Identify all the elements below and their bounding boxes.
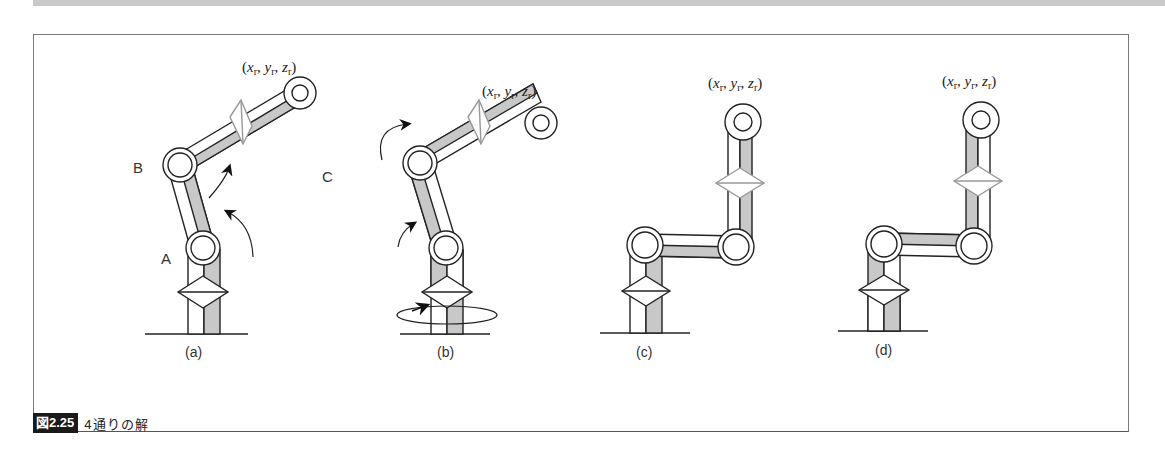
figure-number: 図2.25 (33, 413, 78, 433)
panel-a (145, 77, 316, 334)
panel-d-label: (d) (875, 342, 892, 358)
robot-arm-diagram: (xr, yr, zr) B C A (a) (0, 0, 1165, 461)
panel-b (380, 84, 557, 334)
figure-caption: 図2.25 4通りの解 (33, 413, 149, 433)
panel-d-target-coord: (xr, yr, zr) (942, 73, 996, 91)
point-label-c: C (322, 168, 333, 185)
point-label-b: B (133, 159, 143, 176)
panel-a-label: (a) (185, 344, 202, 360)
point-label-a: A (161, 250, 171, 267)
figure-title: 4通りの解 (84, 414, 148, 433)
panel-c-target-coord: (xr, yr, zr) (708, 75, 762, 93)
panel-d (838, 102, 1002, 331)
panel-c-label: (c) (636, 344, 652, 360)
panel-c (600, 104, 764, 333)
panel-b-label: (b) (437, 344, 454, 360)
panel-b-target-coord: (xr, yr, zr) (482, 83, 536, 101)
panel-a-target-coord: (xr, yr, zr) (242, 59, 296, 77)
